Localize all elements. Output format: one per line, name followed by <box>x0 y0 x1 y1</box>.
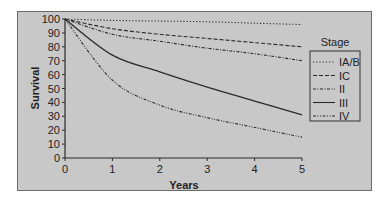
y-tick-label: 80 <box>48 41 60 53</box>
x-tick-label: 1 <box>109 163 115 175</box>
y-tick-label: 0 <box>54 152 60 164</box>
legend-label: IA/B <box>339 56 360 68</box>
series-line-ii <box>65 19 302 61</box>
x-axis-title: Years <box>169 179 198 191</box>
legend: IA/BICIIIIIIV <box>313 56 360 122</box>
series-line-ia-b <box>65 19 302 25</box>
legend-label: IV <box>339 110 350 122</box>
y-tick-label: 70 <box>48 55 60 67</box>
x-axis: 012345 <box>62 158 305 175</box>
y-tick-label: 30 <box>48 110 60 122</box>
x-tick-label: 3 <box>204 163 210 175</box>
legend-label: II <box>339 83 345 95</box>
y-tick-label: 100 <box>42 13 60 25</box>
y-tick-label: 10 <box>48 138 60 150</box>
y-axis: 0102030405060708090100 <box>42 13 65 164</box>
y-tick-label: 90 <box>48 27 60 39</box>
y-axis-title: Survival <box>29 67 41 110</box>
series-line-iv <box>65 19 302 137</box>
y-tick-label: 40 <box>48 96 60 108</box>
x-tick-label: 2 <box>157 163 163 175</box>
legend-label: IC <box>339 70 350 82</box>
x-tick-label: 4 <box>252 163 258 175</box>
series-lines <box>65 19 302 137</box>
series-line-ic <box>65 19 302 47</box>
x-tick-label: 5 <box>299 163 305 175</box>
survival-line-chart: 0102030405060708090100 012345 Survival Y… <box>0 0 389 202</box>
legend-title: Stage <box>321 36 350 48</box>
y-tick-label: 60 <box>48 69 60 81</box>
y-tick-label: 50 <box>48 83 60 95</box>
legend-label: III <box>339 97 348 109</box>
x-tick-label: 0 <box>62 163 68 175</box>
y-tick-label: 20 <box>48 124 60 136</box>
